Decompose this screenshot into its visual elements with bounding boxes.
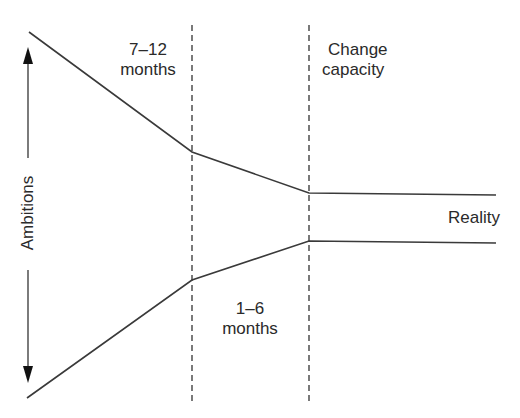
label-change-capacity-line1: Change [322,40,402,60]
ambitions-label: Ambitions [18,168,38,258]
label-change-capacity: Change capacity [322,40,402,80]
label-7-12-months: 7–12 months [108,40,188,80]
arrow-up-icon [23,47,33,64]
label-reality: Reality [420,208,500,228]
arrow-down-icon [23,366,33,383]
label-1-6-months-line1: 1–6 [210,299,290,319]
upper-ambition-line [29,32,496,195]
label-1-6-months: 1–6 months [210,299,290,339]
label-1-6-months-line2: months [210,319,290,339]
label-7-12-months-line1: 7–12 [108,40,188,60]
label-change-capacity-line2: capacity [322,60,402,80]
label-7-12-months-line2: months [108,60,188,80]
